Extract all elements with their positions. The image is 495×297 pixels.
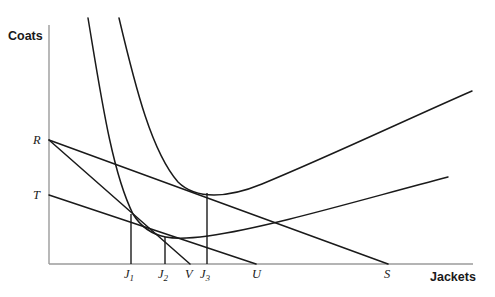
x-label-U: U [252,267,262,281]
x-label-J1: J1 [124,267,134,283]
x-label-J2: J2 [158,267,169,283]
x-axis-title: Jackets [430,270,476,284]
line-R-S [49,140,388,264]
indifference-curve-figure: CoatsJacketsRTJ1J2VJ3US [0,0,495,297]
y-label-T: T [33,188,41,202]
y-axis-title: Coats [8,29,43,43]
indifference-curve-upper [119,18,472,195]
axes-group [49,25,473,264]
x-label-J3: J3 [200,267,211,283]
drop-lines-group [131,193,207,264]
x-label-V: V [185,267,194,281]
x-label-S: S [384,267,391,281]
figure-canvas: CoatsJacketsRTJ1J2VJ3US [0,0,495,297]
line-T-U [49,195,256,264]
indifference-curve-lower [88,18,448,238]
budget-lines-group [49,140,388,264]
y-label-R: R [32,133,41,147]
indifference-curves-group [88,18,472,238]
labels-group: CoatsJacketsRTJ1J2VJ3US [8,29,476,284]
